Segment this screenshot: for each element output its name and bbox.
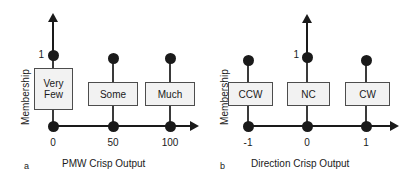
set-box-nc: NC bbox=[287, 82, 330, 106]
y-axis-label-a: Membership bbox=[20, 69, 31, 125]
x-tick-label-100: 100 bbox=[155, 137, 185, 148]
y-axis-arrowhead-b bbox=[302, 14, 312, 23]
panel-letter-a: a bbox=[24, 161, 29, 171]
panel-a: Membership 1 Very Few Some Much 0 50 100… bbox=[0, 0, 203, 177]
panel-b: Membership 1 CCW NC CW -1 0 1 b Directio… bbox=[203, 0, 406, 177]
panel-caption-a: PMW Crisp Output bbox=[62, 158, 145, 169]
set-box-cw: CW bbox=[345, 82, 390, 106]
top-dot-very-few bbox=[48, 50, 59, 61]
set-box-very-few: Very Few bbox=[34, 68, 73, 110]
y-axis-arrowhead-a bbox=[48, 13, 58, 22]
axis-dot-0-b bbox=[302, 121, 313, 132]
y-level-label-a: 1 bbox=[26, 49, 44, 60]
set-box-ccw: CCW bbox=[228, 82, 273, 106]
x-axis-arrowhead-b bbox=[390, 121, 399, 131]
top-dot-nc bbox=[302, 52, 313, 63]
panel-caption-b: Direction Crisp Output bbox=[251, 158, 349, 169]
top-dot-ccw bbox=[243, 55, 254, 66]
panel-letter-b: b bbox=[220, 161, 225, 171]
set-box-much: Much bbox=[145, 82, 195, 106]
y-level-label-b: 1 bbox=[281, 49, 299, 60]
axis-dot-0 bbox=[48, 121, 59, 132]
x-tick-label-50: 50 bbox=[98, 137, 128, 148]
axis-dot-neg1 bbox=[243, 121, 254, 132]
x-tick-label-0: 0 bbox=[38, 137, 68, 148]
x-tick-label-neg1: -1 bbox=[233, 137, 263, 148]
figure-crisp-output-membership: Membership 1 Very Few Some Much 0 50 100… bbox=[0, 0, 406, 177]
axis-dot-50 bbox=[108, 121, 119, 132]
x-axis-arrowhead-a bbox=[190, 121, 199, 131]
axis-dot-1 bbox=[361, 121, 372, 132]
top-dot-some bbox=[108, 53, 119, 64]
x-tick-label-1: 1 bbox=[351, 137, 381, 148]
top-dot-much bbox=[165, 53, 176, 64]
axis-dot-100 bbox=[165, 121, 176, 132]
set-box-some: Some bbox=[88, 82, 138, 106]
x-tick-label-0-b: 0 bbox=[292, 137, 322, 148]
top-dot-cw bbox=[361, 55, 372, 66]
